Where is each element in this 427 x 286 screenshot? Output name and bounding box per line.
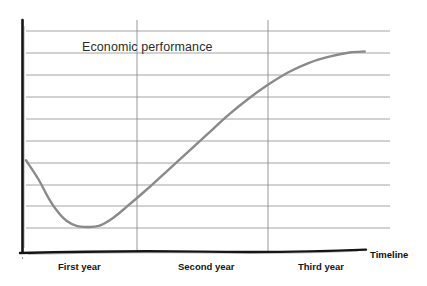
horizontal-gridlines <box>26 31 390 228</box>
x-axis <box>20 250 366 255</box>
x-axis-category-third-year: Third year <box>298 261 344 272</box>
x-axis-category-second-year: Second year <box>178 261 235 272</box>
chart-title: Economic performance <box>82 40 213 54</box>
x-axis-category-first-year: First year <box>58 261 101 272</box>
chart-canvas <box>0 0 427 286</box>
chart-container: Economic performance First year Second y… <box>0 0 427 286</box>
performance-curve <box>26 52 365 227</box>
vertical-dividers <box>137 20 268 252</box>
y-axis <box>23 20 25 262</box>
x-axis-title: Timeline <box>370 249 408 260</box>
